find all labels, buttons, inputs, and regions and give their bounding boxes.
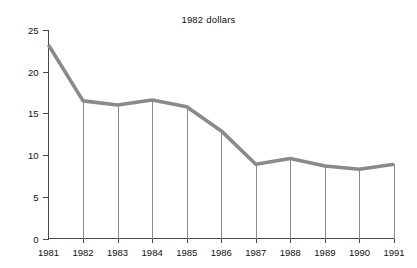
y-tick-label: 20 [28,67,39,78]
chart-container: 1982 dollars 0510152025 1981198219831984… [0,0,417,268]
x-tick-label: 1989 [314,247,335,258]
y-tick-label: 25 [28,25,39,36]
x-tick-label: 1985 [176,247,197,258]
x-tick-label: 1988 [280,247,301,258]
x-tick-group [84,239,395,243]
y-tick-label: 5 [33,192,38,203]
y-tick-label-group: 0510152025 [28,25,39,245]
line-chart-plot: 0510152025 19811982198319841985198619871… [0,0,417,268]
x-tick-label: 1991 [383,247,404,258]
y-tick-label: 15 [28,108,39,119]
x-tick-label: 1982 [72,247,93,258]
y-tick-group [43,31,49,240]
x-tick-label: 1986 [211,247,232,258]
x-tick-label: 1990 [349,247,370,258]
x-tick-label-group: 1981198219831984198519861987198819891990… [38,247,405,258]
x-tick-label: 1984 [142,247,163,258]
x-tick-label: 1987 [245,247,266,258]
y-tick-label: 10 [28,150,39,161]
x-tick-label: 1983 [107,247,128,258]
y-tick-label: 0 [33,234,38,245]
x-tick-label: 1981 [38,247,59,258]
